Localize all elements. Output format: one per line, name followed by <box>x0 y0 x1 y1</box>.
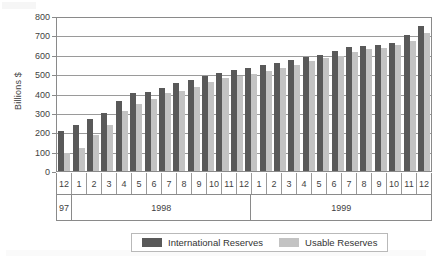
bar-usable-reserves <box>323 58 329 171</box>
scan-artifact <box>2 2 36 9</box>
chart-legend: International ReservesUsable Reserves <box>131 233 388 252</box>
legend-item: International Reserves <box>142 237 263 248</box>
bar-group <box>258 18 272 171</box>
x-axis-month-label: 10 <box>207 173 222 194</box>
x-axis-year-label: 1998 <box>72 195 252 220</box>
legend-swatch-dark <box>142 238 162 247</box>
x-axis-month-label: 3 <box>102 173 117 194</box>
x-axis-year-label: 97 <box>57 195 72 220</box>
bar-group <box>143 18 157 171</box>
x-axis-month-label: 8 <box>357 173 372 194</box>
bar-group <box>417 18 431 171</box>
bar-usable-reserves <box>64 153 70 171</box>
x-axis-month-label: 9 <box>372 173 387 194</box>
bar-usable-reserves <box>381 48 387 171</box>
bar-usable-reserves <box>222 78 228 171</box>
y-axis-tick-label: 0 <box>45 168 50 177</box>
x-axis-month-label: 6 <box>327 173 342 194</box>
y-axis-tick-label: 300 <box>35 109 50 118</box>
bar-usable-reserves <box>194 87 200 171</box>
bar-group <box>273 18 287 171</box>
x-axis-month-label: 3 <box>282 173 297 194</box>
legend-label: International Reserves <box>168 237 263 248</box>
x-axis-month-label: 12 <box>237 173 252 194</box>
y-axis-tick-label: 800 <box>35 13 50 22</box>
bar-usable-reserves <box>294 65 300 171</box>
legend-item: Usable Reserves <box>279 237 377 248</box>
x-axis-month-label: 4 <box>297 173 312 194</box>
bar-group <box>374 18 388 171</box>
bar-group <box>201 18 215 171</box>
bar-group <box>215 18 229 171</box>
bar-group <box>172 18 186 171</box>
y-axis-ticks: 8007006005004003002001000 <box>0 17 56 172</box>
bar-series-container <box>57 18 431 171</box>
x-axis-month-label: 11 <box>402 173 417 194</box>
bar-usable-reserves <box>237 76 243 171</box>
bar-usable-reserves <box>179 91 185 171</box>
bar-usable-reserves <box>424 33 430 171</box>
x-axis-month-label: 6 <box>147 173 162 194</box>
bar-group <box>158 18 172 171</box>
bar-group <box>71 18 85 171</box>
bar-group <box>230 18 244 171</box>
x-axis-month-label: 2 <box>87 173 102 194</box>
bar-usable-reserves <box>410 41 416 171</box>
bar-usable-reserves <box>395 45 401 171</box>
x-axis-month-label: 5 <box>132 173 147 194</box>
y-axis-tick-label: 700 <box>35 32 50 41</box>
bar-group <box>316 18 330 171</box>
x-axis-month-label: 4 <box>117 173 132 194</box>
y-axis-tick-label: 400 <box>35 90 50 99</box>
bar-usable-reserves <box>309 61 315 171</box>
x-axis-month-label: 7 <box>162 173 177 194</box>
bar-usable-reserves <box>251 74 257 171</box>
legend-swatch-light <box>279 238 299 247</box>
x-axis-month-label: 1 <box>252 173 267 194</box>
plot-area <box>56 17 432 172</box>
bar-usable-reserves <box>338 56 344 171</box>
bar-group <box>57 18 71 171</box>
y-axis-tick-label: 600 <box>35 51 50 60</box>
bar-group <box>402 18 416 171</box>
bar-usable-reserves <box>352 52 358 171</box>
x-axis-month-label: 12 <box>57 173 72 194</box>
bar-group <box>86 18 100 171</box>
y-axis-tick-label: 200 <box>35 129 50 138</box>
bar-usable-reserves <box>136 104 142 171</box>
bar-usable-reserves <box>151 99 157 171</box>
bar-usable-reserves <box>366 49 372 171</box>
bar-usable-reserves <box>122 111 128 171</box>
y-axis-tick-label: 500 <box>35 71 50 80</box>
bar-group <box>129 18 143 171</box>
legend-label: Usable Reserves <box>305 237 377 248</box>
x-axis-month-label: 5 <box>312 173 327 194</box>
x-axis-year-label: 1999 <box>251 195 431 220</box>
x-axis-year-labels: 9719981999 <box>56 195 432 221</box>
bar-group <box>359 18 373 171</box>
bar-group <box>244 18 258 171</box>
y-axis-tick-label: 100 <box>35 148 50 157</box>
bar-usable-reserves <box>79 148 85 171</box>
x-axis-month-label: 9 <box>192 173 207 194</box>
bar-group <box>388 18 402 171</box>
x-axis-month-label: 12 <box>417 173 431 194</box>
bar-usable-reserves <box>93 135 99 171</box>
x-axis-month-labels: 12123456789101112123456789101112 <box>56 173 432 195</box>
bar-usable-reserves <box>165 93 171 171</box>
x-axis-month-label: 11 <box>222 173 237 194</box>
bar-usable-reserves <box>266 71 272 171</box>
bar-group <box>330 18 344 171</box>
bar-usable-reserves <box>107 125 113 172</box>
x-axis-month-label: 7 <box>342 173 357 194</box>
x-axis-month-label: 1 <box>72 173 87 194</box>
bar-group <box>287 18 301 171</box>
bar-group <box>345 18 359 171</box>
bar-group <box>302 18 316 171</box>
bar-group <box>187 18 201 171</box>
bar-usable-reserves <box>280 68 286 171</box>
x-axis-month-label: 2 <box>267 173 282 194</box>
bar-group <box>100 18 114 171</box>
x-axis-month-label: 8 <box>177 173 192 194</box>
x-axis-month-label: 10 <box>387 173 402 194</box>
